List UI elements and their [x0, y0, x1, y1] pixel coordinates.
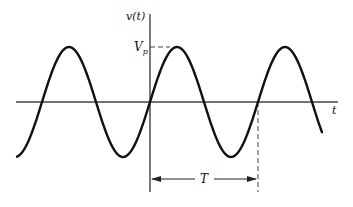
period-label: T [200, 172, 209, 186]
x-axis-label: t [332, 104, 337, 117]
peak-voltage-label: Vp [134, 40, 148, 56]
y-axis-label: v(t) [126, 10, 145, 23]
arrowhead-left-icon [151, 176, 161, 182]
arrowhead-right-icon [247, 176, 257, 182]
peak-voltage-subscript: p [143, 47, 148, 56]
sine-wave-diagram: v(t) Vp t T [0, 0, 353, 207]
